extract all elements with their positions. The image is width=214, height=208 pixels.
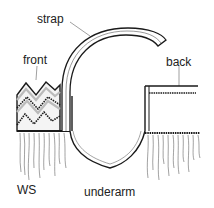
knitting-strap-diagram: strap front back WS underarm <box>0 0 214 208</box>
diagram-drawing <box>0 0 214 208</box>
back-label: back <box>166 56 191 68</box>
strap-band <box>62 28 166 131</box>
underarm-label: underarm <box>84 186 135 198</box>
underarm-curve <box>70 86 145 168</box>
strap-leader-line <box>70 22 90 36</box>
strap-label: strap <box>37 13 64 25</box>
back-panel <box>145 86 200 133</box>
front-leader-line <box>36 66 37 80</box>
front-label: front <box>23 54 47 66</box>
wrong-side-label: WS <box>17 184 36 196</box>
yarn-fringe <box>20 133 200 180</box>
